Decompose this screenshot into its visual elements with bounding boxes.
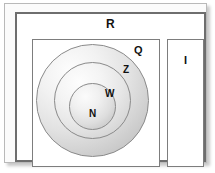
set-label-q: Q — [134, 44, 143, 56]
set-label-i: I — [168, 54, 203, 66]
set-label-r: R — [17, 17, 204, 31]
set-region-real: R Q Z W N I — [15, 12, 206, 162]
set-label-z: Z — [123, 64, 129, 75]
set-region-rational: Q Z W N — [32, 39, 160, 167]
set-region-irrational: I — [167, 39, 204, 167]
set-label-n: N — [89, 108, 96, 119]
diagram-canvas: R Q Z W N I — [0, 0, 215, 173]
set-label-w: W — [105, 88, 114, 99]
outer-frame: R Q Z W N I — [4, 3, 207, 163]
